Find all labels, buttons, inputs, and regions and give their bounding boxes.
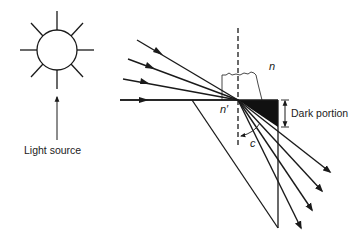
refracted-rays — [238, 100, 330, 228]
sun-icon — [20, 11, 94, 89]
sample-index-label: n — [269, 60, 275, 72]
dark-portion-label: Dark portion — [291, 107, 348, 119]
prism — [120, 100, 278, 228]
prism-index-label: n′ — [220, 103, 229, 115]
critical-angle-label: c — [250, 137, 256, 149]
incident-rays — [120, 40, 238, 100]
incident-ray-arrowheads — [139, 47, 163, 103]
incident-ray — [128, 59, 238, 100]
refractometer-diagram: Light source c Dark portion n n′ — [0, 0, 362, 238]
light-source-label: Light source — [24, 144, 81, 156]
